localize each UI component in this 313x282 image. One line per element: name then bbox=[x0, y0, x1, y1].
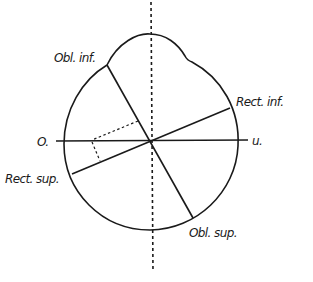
label-rect-sup: Rect. sup. bbox=[5, 172, 59, 186]
dotted-construction-line-lower bbox=[92, 142, 100, 161]
label-obl-sup: Obl. sup. bbox=[189, 226, 237, 240]
dotted-construction-line-upper bbox=[92, 121, 138, 140]
label-obl-inf: Obl. inf. bbox=[54, 51, 95, 65]
vertical-dotted-axis bbox=[151, 2, 153, 272]
label-u: u. bbox=[252, 134, 262, 148]
eye-axis-diagram: Obl. inf. Rect. inf. O. u. Rect. sup. Ob… bbox=[0, 0, 313, 282]
label-o: O. bbox=[37, 135, 49, 149]
label-rect-inf: Rect. inf. bbox=[236, 95, 283, 109]
